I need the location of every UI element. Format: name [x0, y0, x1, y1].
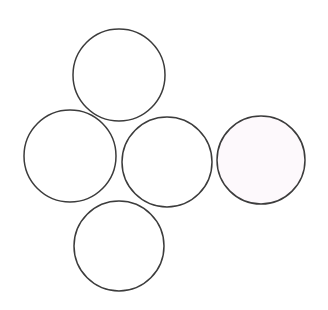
circles-diagram — [0, 0, 328, 310]
circle-bottom[interactable] — [74, 201, 164, 291]
circle-top[interactable] — [73, 29, 165, 121]
circle-right-tinted[interactable] — [217, 116, 305, 204]
circle-center[interactable] — [122, 117, 212, 207]
circle-left[interactable] — [24, 110, 116, 202]
figure-canvas — [0, 0, 328, 310]
